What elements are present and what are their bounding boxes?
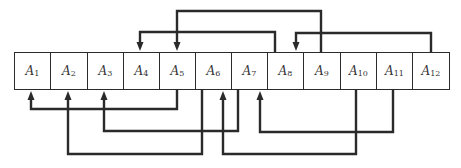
arrow-up-icon [101,91,108,100]
arrow-up-icon [65,91,72,100]
connector-line [223,90,356,154]
connector-line [260,90,393,132]
connector-line [296,33,431,52]
link-a6-to-a2 [65,90,203,154]
link-a11-to-a7 [257,90,394,132]
arrow-up-icon [28,91,35,100]
link-a7-to-a4 [137,32,276,52]
connector-line [68,90,202,154]
link-arrows [0,0,461,168]
array-diagram: A1 A2 A3 A4 A5 A6 A7 A8 A9 A10 A11 A12 [0,0,461,168]
connector-line [140,32,275,52]
link-a10-to-a6 [220,90,357,154]
arrow-down-icon [293,42,300,51]
link-a7-to-a3 [101,90,239,131]
arrow-down-icon [174,42,181,51]
arrow-down-icon [137,42,144,51]
link-a12-to-a8 [293,33,432,52]
connector-line [104,90,238,131]
arrow-up-icon [257,91,264,100]
arrow-up-icon [220,91,227,100]
